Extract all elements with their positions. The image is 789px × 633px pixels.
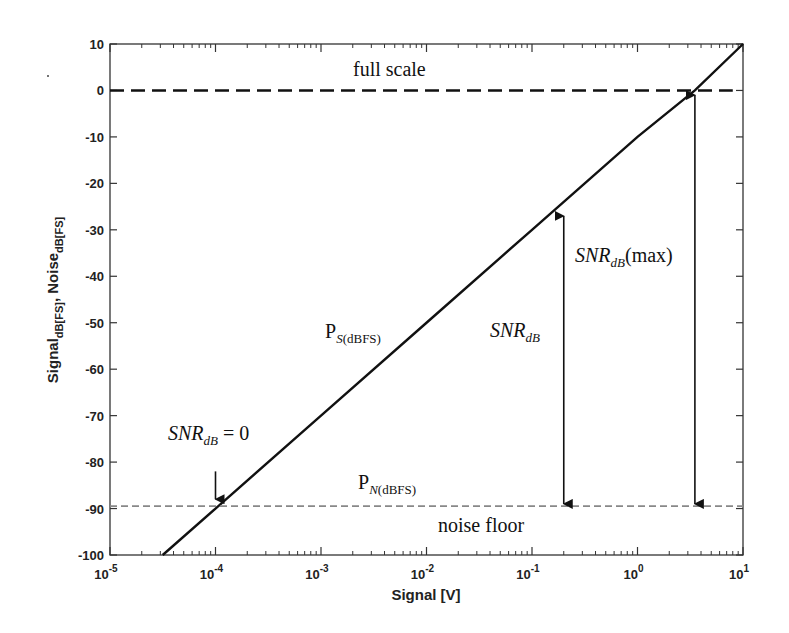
y-tick-label: -80 (85, 455, 104, 470)
snrmax-main: SNR (575, 244, 611, 266)
pn-main: P (358, 471, 369, 493)
y-tick-label: -90 (85, 502, 104, 517)
snrmax-sub: dB (611, 255, 626, 270)
noise-floor-label: noise floor (438, 514, 524, 536)
x-tick-label: 10-5 (94, 563, 118, 582)
y-tick-label: -40 (85, 269, 104, 284)
y-title-noise: Noise (44, 253, 61, 294)
ps-sub: S(dBFS) (336, 331, 381, 346)
y-title-signal-sub: dB[FS] (53, 302, 65, 338)
y-tick-label: 0 (97, 83, 104, 98)
y-tick-label: -20 (85, 176, 104, 191)
stray-dot (47, 75, 49, 77)
ps-main: P (325, 320, 336, 342)
x-tick-label: 10-2 (411, 563, 435, 582)
y-tick-label: -60 (85, 362, 104, 377)
y-tick-label: -100 (78, 548, 104, 563)
x-tick-label: 10-4 (200, 563, 224, 582)
y-tick-label: -50 (85, 316, 104, 331)
snrmax-suffix: (max) (625, 244, 673, 267)
snr-sub: dB (526, 330, 541, 345)
snr0-main: SNR (168, 422, 204, 444)
y-axis-title: SignaldB[FS], NoisedB[FS] (44, 217, 65, 384)
snr0-sub: dB (204, 433, 219, 448)
x-tick-label: 101 (729, 563, 749, 582)
snr-main: SNR (490, 319, 526, 341)
full-scale-label: full scale (353, 58, 426, 80)
x-tick-label: 10-3 (305, 563, 329, 582)
x-axis-title: Signal [V] (391, 586, 460, 603)
arrows-group (216, 95, 695, 504)
y-tick-label: 10 (90, 37, 104, 52)
y-title-signal: Signal (44, 338, 61, 383)
snr-max-label: SNRdB(max) (575, 244, 673, 270)
y-tick-label: -10 (85, 130, 104, 145)
y-tick-label: -30 (85, 223, 104, 238)
series-line-0 (163, 44, 743, 555)
x-tick-label: 10-1 (516, 563, 540, 582)
pn-dbfs-label: PN(dBFS) (358, 471, 416, 497)
snr-db-label: SNRdB (490, 319, 540, 345)
snr-zero-label: SNRdB = 0 (168, 422, 249, 448)
y-tick-label: -70 (85, 409, 104, 424)
y-title-noise-sub: dB[FS] (53, 217, 65, 253)
ps-dbfs-label: PS(dBFS) (325, 320, 381, 346)
snr0-suffix: = 0 (218, 422, 249, 444)
plot-frame (110, 44, 743, 555)
snr-chart: 100-10-20-30-40-50-60-70-80-90-100 10-51… (0, 0, 789, 633)
pn-sub: N(dBFS) (368, 482, 416, 497)
series-group (110, 44, 743, 555)
x-tick-label: 100 (623, 563, 643, 582)
